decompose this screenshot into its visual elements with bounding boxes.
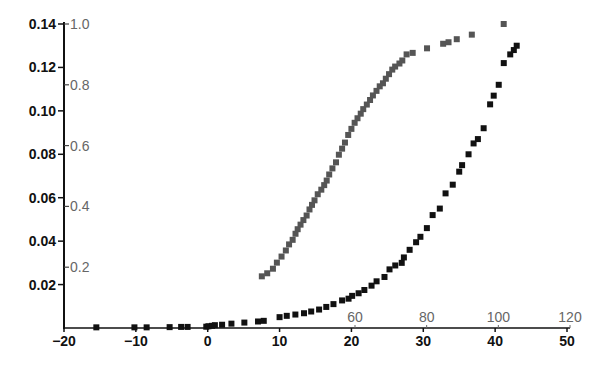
gray-data-point <box>404 51 410 57</box>
black-data-point <box>93 324 99 330</box>
y-primary-tick-label: 0.06 <box>29 190 56 206</box>
axes: 0.020.040.060.080.100.120.140.20.40.60.8… <box>29 16 582 349</box>
x-primary-tick-label: 40 <box>487 333 503 349</box>
gray-data-point <box>410 50 416 56</box>
gray-data-point <box>501 21 507 27</box>
black-data-point <box>424 225 430 231</box>
black-data-point <box>212 322 218 328</box>
black-data-point <box>316 307 322 313</box>
y-primary-tick-label: 0.10 <box>29 103 56 119</box>
black-data-point <box>475 136 481 142</box>
black-data-point <box>401 254 407 260</box>
black-data-point <box>277 314 283 320</box>
black-data-point <box>514 43 520 49</box>
gray-data-point <box>274 260 280 266</box>
black-data-point <box>255 318 261 324</box>
gray-data-point <box>324 178 330 184</box>
black-data-point <box>443 190 449 196</box>
black-data-point <box>459 162 465 168</box>
black-data-point <box>381 274 387 280</box>
gray-data-point <box>469 32 475 38</box>
black-data-point <box>219 322 225 328</box>
black-data-point <box>261 318 267 324</box>
gray-data-point <box>399 57 405 63</box>
black-data-point <box>349 293 355 299</box>
black-data-point <box>361 287 367 293</box>
gray-data-point <box>440 41 446 47</box>
black-data-point <box>392 262 398 268</box>
black-data-point <box>185 324 191 330</box>
black-data-point <box>323 304 329 310</box>
x-primary-tick-label: 20 <box>344 333 360 349</box>
black-data-point <box>356 290 362 296</box>
gray-data-point <box>345 132 351 138</box>
scatter-chart: 0.020.040.060.080.100.120.140.20.40.60.8… <box>0 0 597 366</box>
y-secondary-tick-label: 0.4 <box>70 198 90 214</box>
black-data-point <box>407 247 413 253</box>
y-primary-tick-label: 0.12 <box>29 59 56 75</box>
gray-data-point <box>259 273 265 279</box>
black-data-point <box>387 266 393 272</box>
black-data-point <box>417 234 423 240</box>
gray-data-point <box>336 152 342 158</box>
black-data-point <box>491 93 497 99</box>
y-secondary-tick-label: 0.8 <box>70 77 90 93</box>
gray-data-point <box>424 45 430 51</box>
gray-data-point <box>279 254 285 260</box>
y-primary-tick-label: 0.02 <box>29 277 56 293</box>
gray-data-point <box>326 171 332 177</box>
x-secondary-tick-label: 60 <box>347 309 363 325</box>
black-data-point <box>284 313 290 319</box>
black-data-point <box>456 169 462 175</box>
black-data-point <box>167 324 173 330</box>
black-data-point <box>437 206 443 212</box>
y-secondary-tick-label: 1.0 <box>70 16 90 32</box>
x-primary-tick-label: 10 <box>272 333 288 349</box>
black-data-point <box>131 324 137 330</box>
gray-data-point <box>348 126 354 132</box>
gray-data-point <box>270 266 276 272</box>
black-data-point <box>399 260 405 266</box>
gray-data-point <box>283 247 289 253</box>
black-data-point <box>450 182 456 188</box>
black-data-point <box>308 308 314 314</box>
x-primary-tick-label: −10 <box>124 333 148 349</box>
y-secondary-tick-label: 0.2 <box>70 259 90 275</box>
black-data-point <box>501 60 507 66</box>
gray-data-point <box>333 159 339 165</box>
black-data-point <box>330 301 336 307</box>
gray-data-point <box>304 213 310 219</box>
gray-data-point <box>339 146 345 152</box>
black-data-point <box>228 321 234 327</box>
gray-data-point <box>312 197 318 203</box>
y-primary-tick-label: 0.14 <box>29 16 56 32</box>
x-secondary-tick-label: 120 <box>558 309 582 325</box>
black-data-point <box>292 312 298 318</box>
x-secondary-tick-label: 80 <box>419 309 435 325</box>
series-layer <box>93 21 519 330</box>
black-data-point <box>466 151 472 157</box>
x-secondary-tick-label: 100 <box>487 309 511 325</box>
black-data-point <box>481 125 487 131</box>
gray-data-point <box>446 39 452 45</box>
black-data-point <box>374 278 380 284</box>
y-primary-tick-label: 0.04 <box>29 233 56 249</box>
black-data-point <box>430 212 436 218</box>
black-data-point <box>241 320 247 326</box>
black-data-point <box>339 297 345 303</box>
black-data-point <box>301 310 307 316</box>
x-primary-tick-label: 0 <box>204 333 212 349</box>
gray-data-point <box>329 165 335 171</box>
y-primary-tick-label: 0.08 <box>29 146 56 162</box>
y-secondary-tick-label: 0.6 <box>70 138 90 154</box>
black-data-point <box>144 324 150 330</box>
x-primary-tick-label: 30 <box>415 333 431 349</box>
black-data-point <box>413 239 419 245</box>
black-data-point <box>487 101 493 107</box>
x-primary-tick-label: 50 <box>559 333 575 349</box>
x-primary-tick-label: −20 <box>52 333 76 349</box>
black-data-point <box>178 324 184 330</box>
gray-data-point <box>342 140 348 146</box>
black-data-point <box>496 82 502 88</box>
gray-data-point <box>454 36 460 42</box>
